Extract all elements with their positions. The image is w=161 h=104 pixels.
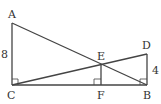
label-A: A <box>7 8 17 21</box>
label-D: D <box>142 39 151 52</box>
segment-AB <box>12 23 147 85</box>
label-B: B <box>143 89 151 102</box>
length-DB: 4 <box>152 64 159 77</box>
right-angle-mark-F <box>94 79 101 85</box>
label-E: E <box>97 50 105 63</box>
label-C: C <box>7 89 15 102</box>
segment-CD <box>12 54 147 85</box>
label-F: F <box>97 89 105 102</box>
geometry-diagram: A C F B D E 8 4 <box>0 0 161 104</box>
length-AC: 8 <box>1 48 8 61</box>
